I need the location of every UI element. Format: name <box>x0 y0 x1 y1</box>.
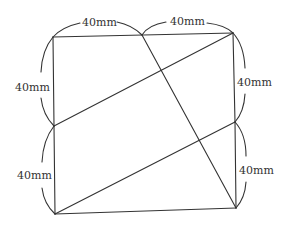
diagonal-leftmid-topright <box>54 33 233 126</box>
dimension-arc-top-right <box>142 22 166 35</box>
dimension-arc-left-upper <box>41 37 53 72</box>
dimension-arc-right-upper-b <box>235 94 245 122</box>
dimension-arc-left-lower <box>42 126 54 162</box>
diagram-canvas: 40mm 40mm 40mm 40mm 40mm 40mm <box>0 0 287 230</box>
bottom-edge <box>55 208 236 214</box>
label-left-upper: 40mm <box>15 81 50 94</box>
left-lower-edge <box>54 126 55 214</box>
left-upper-edge <box>53 37 54 126</box>
label-left-lower: 40mm <box>17 169 52 182</box>
label-top-right: 40mm <box>170 15 205 28</box>
dimension-arc-right-upper <box>233 33 245 68</box>
dimension-arc-top-left <box>53 23 80 37</box>
dimension-arc-left-upper-b <box>41 98 54 126</box>
label-right-lower: 40mm <box>239 164 274 177</box>
dimension-arc-top-left-b <box>117 22 142 35</box>
dimension-arc-top-right-b <box>207 23 233 33</box>
diagonal-topmid-bottomright <box>142 35 236 208</box>
right-upper-edge <box>233 33 235 122</box>
dimension-arc-right-lower <box>235 122 246 156</box>
label-top-left: 40mm <box>82 16 117 29</box>
geometry-figure: 40mm 40mm 40mm 40mm 40mm 40mm <box>0 0 287 230</box>
dimension-arc-left-lower-b <box>42 188 55 214</box>
label-right-upper: 40mm <box>237 76 272 89</box>
diagonal-bottomleft-rightmid <box>55 122 235 214</box>
dimension-arc-right-lower-b <box>236 182 246 208</box>
right-lower-edge <box>235 122 236 208</box>
